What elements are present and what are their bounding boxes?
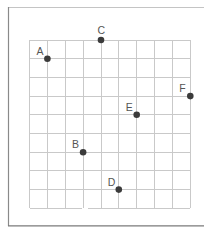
- point-marker: [98, 37, 105, 44]
- point-d: D: [108, 176, 122, 193]
- point-label: C: [98, 24, 106, 36]
- point-label: E: [126, 101, 133, 113]
- point-label: B: [72, 138, 79, 150]
- point-e: E: [126, 101, 140, 118]
- point-marker: [44, 55, 51, 62]
- point-a: A: [36, 45, 50, 62]
- point-marker: [187, 93, 194, 100]
- point-label: F: [179, 82, 185, 94]
- point-label: D: [108, 176, 116, 188]
- point-f: F: [179, 82, 193, 99]
- plotted-points: ABCDEF: [36, 24, 193, 193]
- point-label: A: [36, 45, 43, 57]
- coordinate-grid-figure: ABCDEF: [0, 0, 204, 229]
- point-marker: [133, 112, 140, 119]
- point-marker: [116, 186, 123, 193]
- point-marker: [80, 149, 87, 156]
- point-b: B: [72, 138, 86, 155]
